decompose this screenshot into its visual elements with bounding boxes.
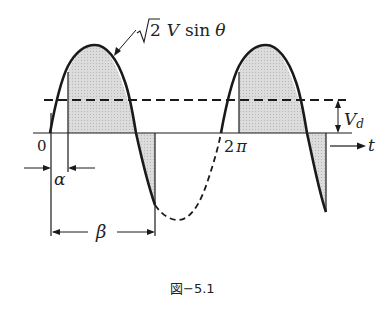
- two-pi-label: 2π: [224, 137, 247, 156]
- vd-arrow-down: [335, 125, 341, 133]
- rectifier-waveform-diagram: t Vd 0 2π α β 2Vsinθ 図−5.1: [0, 0, 384, 309]
- figure-caption: 図−5.1: [170, 281, 215, 296]
- alpha-arrow-right-head: [68, 165, 76, 171]
- alpha-label: α: [54, 169, 66, 189]
- t-axis-label: t: [368, 135, 375, 155]
- vd-arrow-up: [335, 100, 341, 108]
- t-arrow-head: [357, 143, 366, 150]
- curve-label-leader: [117, 30, 136, 52]
- sine-curve-dashed: [155, 133, 221, 220]
- origin-label: 0: [37, 137, 47, 155]
- vd-label: Vd: [344, 109, 364, 131]
- shaded-conduction-region-2: [239, 45, 326, 212]
- curve-label: 2Vsinθ: [150, 20, 225, 40]
- beta-arrow-right-head: [147, 229, 155, 235]
- alpha-arrow-left-head: [43, 165, 51, 171]
- beta-label: β: [95, 221, 106, 242]
- shaded-conduction-region-1: [68, 45, 155, 205]
- beta-arrow-left-head: [52, 229, 60, 235]
